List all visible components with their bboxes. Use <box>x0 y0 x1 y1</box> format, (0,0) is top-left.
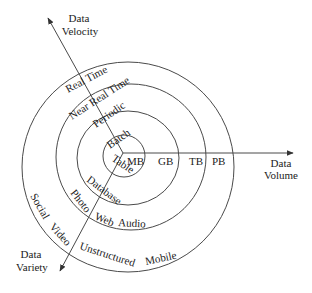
variety-axis-label-line2: Variety <box>16 261 48 273</box>
variety-label-audio: Audio <box>118 216 147 229</box>
volume-label-gb: GB <box>158 155 173 167</box>
big-data-3v-diagram: Data Velocity Data Volume Data Variety M… <box>0 0 312 293</box>
velocity-axis-label-line1: Data <box>69 12 90 24</box>
variety-label-photo: Photo <box>68 187 94 215</box>
volume-axis-label-line2: Volume <box>264 169 298 181</box>
velocity-axis-label-line2: Velocity <box>62 25 99 37</box>
velocity-label-batch: Batch <box>104 126 132 151</box>
variety-axis-label-line1: Data <box>21 248 42 260</box>
variety-label-mobile: Mobile <box>144 249 178 267</box>
variety-label-social: Social <box>28 191 52 221</box>
volume-label-pb: PB <box>212 155 225 167</box>
volume-axis-label-line1: Data <box>271 157 292 169</box>
variety-label-video: Video <box>48 220 75 248</box>
volume-label-tb: TB <box>189 155 203 167</box>
